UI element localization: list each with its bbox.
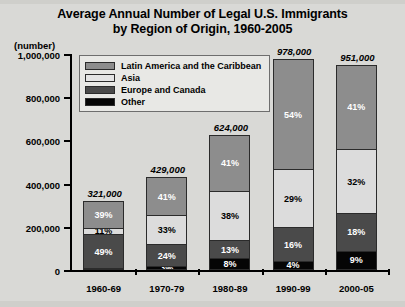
bar-segment[interactable]: 49% [84,235,123,268]
x-axis-tick-label: 1980-89 [198,283,261,294]
chart-title: Average Annual Number of Legal U.S. Immi… [0,7,405,36]
chart-page: Average Annual Number of Legal U.S. Immi… [0,0,405,307]
legend-swatch-icon [85,86,115,94]
x-axis-tick-label: 1970-79 [135,283,198,294]
bar-segment[interactable]: 29% [274,169,313,228]
y-axis-tick-label: 200,000 [26,222,60,233]
y-axis-tick [64,270,72,272]
bar-segment-label: 41% [158,192,176,202]
bar-segment-label: 38% [221,211,239,221]
bar-segment-label: 54% [284,110,302,120]
bar-segment-label: 49% [94,247,112,257]
bar-slot: 54%29%16%4%978,000 [262,54,325,270]
legend-item: Asia [85,72,261,83]
y-axis-tick-label: 600,000 [26,136,60,147]
y-axis-tick-label: 800,000 [26,93,60,104]
bar-segment-label: 24% [158,251,176,261]
bar-segment[interactable]: 9% [337,251,376,269]
bar-segment[interactable]: 39% [84,202,123,228]
page-top-edge [0,0,405,4]
x-axis-line [70,270,388,272]
legend-swatch-icon [85,98,115,106]
y-axis-tick-label: 0 [55,266,60,277]
x-axis-tick-label: 1960-69 [72,283,135,294]
bar-segment-label: 13% [221,245,239,255]
bar-segment-label: 3% [160,266,173,269]
bar-segment[interactable]: 11% [84,228,123,235]
stacked-bar[interactable]: 41%38%13%8%624,000 [209,135,250,270]
bar-segment[interactable]: 41% [210,136,249,190]
stacked-bar[interactable]: 39%11%49%1%321,000 [83,201,124,270]
bar-segment[interactable]: 41% [337,66,376,149]
bar-total-label: 429,000 [136,164,199,175]
bar-segment[interactable]: 38% [210,191,249,241]
stacked-bar[interactable]: 41%33%24%3%429,000 [146,177,187,270]
bar-slot: 41%32%18%9%951,000 [325,54,388,270]
bar-segment-label: 33% [158,225,176,235]
bar-segment[interactable]: 8% [210,258,249,269]
legend-item-label: Latin America and the Caribbean [121,61,261,71]
bar-segment-label: 29% [284,194,302,204]
chart-title-line-1: Average Annual Number of Legal U.S. Immi… [0,7,405,22]
bar-segment[interactable]: 54% [274,60,313,170]
bar-total-label: 624,000 [199,122,262,133]
chart-title-line-2: by Region of Origin, 1960-2005 [0,22,405,37]
bar-segment[interactable]: 3% [147,266,186,269]
bar-segment[interactable]: 1% [84,268,123,269]
legend-item: Europe and Canada [85,84,261,95]
y-axis-tick [64,184,72,186]
bar-segment-label: 32% [347,177,365,187]
legend-item-label: Europe and Canada [121,85,206,95]
bar-segment-label: 4% [287,261,300,269]
bar-segment[interactable]: 4% [274,261,313,269]
bar-segment-label: 9% [350,255,363,265]
x-axis-tick [388,269,390,275]
legend-item: Latin America and the Caribbean [85,60,261,71]
y-axis-tick-label: 1,000,000 [18,50,60,61]
y-axis-tick [64,227,72,229]
legend-item: Other [85,96,261,107]
x-axis-tick-label: 2000-05 [325,283,388,294]
bar-segment[interactable]: 41% [147,178,186,215]
bar-segment-label: 16% [284,240,302,250]
legend-item-label: Other [121,97,145,107]
legend-swatch-icon [85,74,115,82]
bar-segment-label: 18% [347,227,365,237]
bar-segment[interactable]: 16% [274,228,313,260]
bar-segment-label: 11% [95,228,113,235]
x-axis-tick-labels: 1960-691970-791980-891990-992000-05 [70,278,388,294]
bar-segment[interactable]: 18% [337,214,376,251]
stacked-bar[interactable]: 54%29%16%4%978,000 [273,59,314,270]
bar-segment-label: 1% [97,268,110,269]
bar-total-label: 978,000 [263,46,326,57]
bar-segment-label: 39% [94,210,112,220]
y-axis-tick [64,97,72,99]
stacked-bar[interactable]: 41%32%18%9%951,000 [336,65,377,270]
legend-swatch-icon [85,62,115,70]
bar-segment[interactable]: 24% [147,245,186,267]
y-axis-tick-labels: 1,000,000800,000600,000400,000200,0000 [0,54,70,272]
x-axis-tick-label: 1990-99 [262,283,325,294]
legend-item-label: Asia [121,73,140,83]
page-bottom-edge [0,301,405,307]
bar-segment-label: 41% [221,158,239,168]
bar-total-label: 321,000 [73,188,136,199]
bar-segment-label: 41% [347,102,365,112]
chart-legend: Latin America and the CaribbeanAsiaEurop… [79,55,270,112]
bar-total-label: 951,000 [326,52,389,63]
y-axis-tick [64,140,72,142]
y-axis-tick-label: 400,000 [26,179,60,190]
y-axis-tick [64,54,72,56]
bar-segment[interactable]: 33% [147,215,186,245]
bar-segment[interactable]: 13% [210,241,249,258]
bar-segment[interactable]: 32% [337,149,376,214]
bar-segment-label: 8% [223,259,236,269]
